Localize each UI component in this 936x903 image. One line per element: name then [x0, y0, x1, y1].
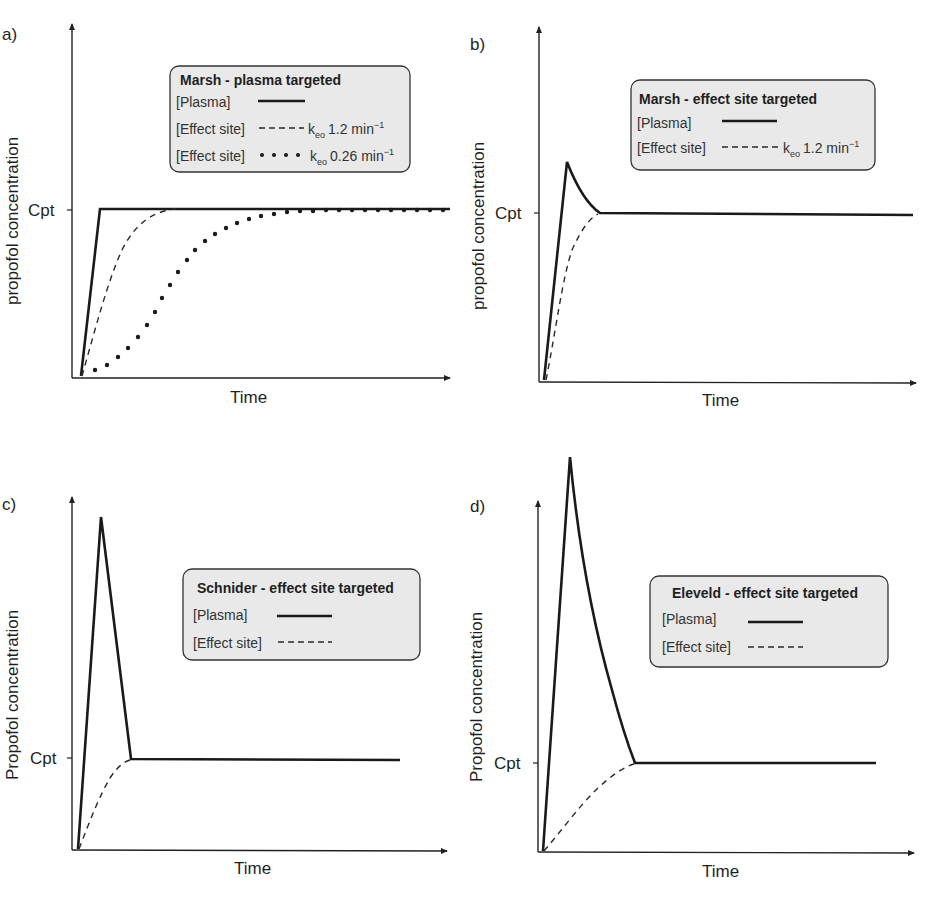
legend-title: Marsh - effect site targeted: [639, 91, 817, 107]
y-tick-label: Cpt: [28, 201, 55, 220]
panel-a: a) propofol concentration Cpt Time Marsh…: [2, 24, 450, 407]
legend-title: Eleveld - effect site targeted: [672, 585, 858, 601]
legend-effect-label: [Effect site]: [637, 140, 706, 156]
x-axis-label: Time: [702, 391, 739, 410]
legend-plasma-label: [Plasma]: [662, 611, 716, 627]
panel-d: d) Propofol concentration Cpt Time Eleve…: [467, 457, 914, 881]
legend: Marsh - plasma targeted [Plasma] [Effect…: [170, 66, 410, 172]
panel-b: b) propofol concentration Cpt Time Marsh…: [469, 27, 916, 410]
plasma-curve: [81, 209, 450, 376]
x-axis-label: Time: [230, 388, 267, 407]
legend-effect-label: [Effect site]: [193, 635, 262, 651]
legend-plasma-label: [Plasma]: [176, 94, 230, 110]
effect-site-curve: [79, 760, 130, 849]
x-axis-label: Time: [702, 862, 739, 881]
legend-plasma-label: [Plasma]: [637, 115, 691, 131]
y-axis-label: Propofol concentration: [3, 610, 22, 780]
effect-site-curve: [544, 764, 634, 851]
panel-label: b): [470, 35, 485, 54]
panel-label: c): [2, 495, 16, 514]
panel-c: c) Propofol concentration Cpt Time Schni…: [2, 495, 447, 878]
legend-title: Marsh - plasma targeted: [180, 72, 341, 88]
legend-effect-label: [Effect site]: [662, 639, 731, 655]
x-axis: [72, 850, 447, 851]
legend: Schnider - effect site targeted [Plasma]…: [183, 569, 420, 660]
plasma-curve: [78, 517, 400, 849]
effect-site-curve-keo-0.26: [93, 208, 445, 372]
legend-title: Schnider - effect site targeted: [197, 580, 394, 596]
legend: Marsh - effect site targeted [Plasma] [E…: [631, 80, 875, 170]
y-axis-label: propofol concentration: [469, 142, 488, 310]
y-tick-label: Cpt: [494, 754, 521, 773]
figure: a) propofol concentration Cpt Time Marsh…: [0, 0, 936, 903]
x-axis-label: Time: [234, 859, 271, 878]
x-axis: [539, 382, 916, 383]
y-axis-label: propofol concentration: [3, 137, 22, 305]
y-tick-label: Cpt: [495, 204, 522, 223]
panel-label: a): [2, 25, 17, 44]
legend-plasma-label: [Plasma]: [193, 607, 247, 623]
y-axis-label: Propofol concentration: [467, 612, 486, 782]
y-tick-label: Cpt: [30, 749, 57, 768]
legend-effect-label-2: [Effect site]: [176, 148, 245, 164]
legend: Eleveld - effect site targeted [Plasma] …: [650, 576, 888, 667]
plasma-curve: [544, 162, 913, 380]
panel-label: d): [470, 497, 485, 516]
legend-effect-label: [Effect site]: [176, 121, 245, 137]
x-axis: [538, 852, 914, 853]
